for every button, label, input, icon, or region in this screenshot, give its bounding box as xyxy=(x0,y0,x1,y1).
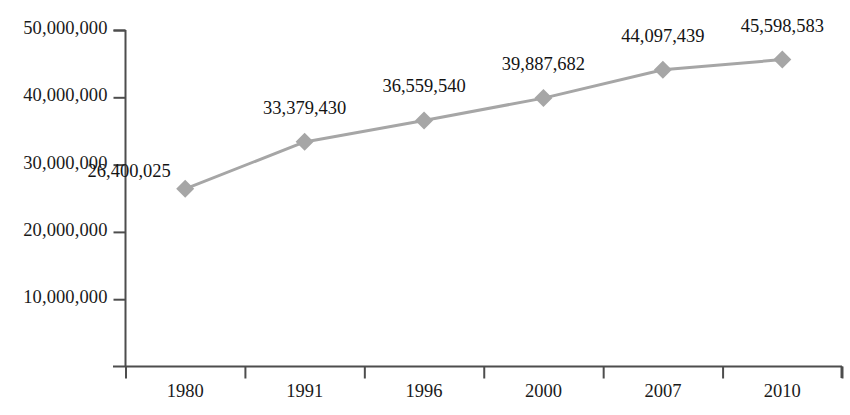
data-point-label: 26,400,025 xyxy=(69,161,189,182)
y-axis-tick-label: 50,000,000 xyxy=(23,18,107,39)
x-axis-ticks xyxy=(126,367,843,379)
data-point-marker xyxy=(534,89,552,107)
x-axis-tick-label: 1996 xyxy=(364,381,484,402)
data-point-marker xyxy=(296,133,314,151)
chart-canvas xyxy=(0,0,850,415)
x-axis-tick-label: 2010 xyxy=(722,381,842,402)
data-point-label: 36,559,540 xyxy=(364,76,484,97)
data-point-label: 44,097,439 xyxy=(603,26,723,47)
x-axis-tick-label: 2007 xyxy=(603,381,723,402)
data-point-label: 39,887,682 xyxy=(483,54,603,75)
data-point-label: 45,598,583 xyxy=(722,16,842,37)
line-chart: 10,000,00020,000,00030,000,00040,000,000… xyxy=(0,0,850,415)
y-axis-tick-label: 40,000,000 xyxy=(23,85,107,106)
data-point-marker xyxy=(176,180,194,198)
x-axis-tick-label: 1980 xyxy=(125,381,245,402)
data-point-marker xyxy=(415,111,433,129)
data-point-marker xyxy=(773,51,791,69)
x-axis-tick-label: 2000 xyxy=(483,381,603,402)
x-axis-tick-label: 1991 xyxy=(245,381,365,402)
data-point-marker xyxy=(654,61,672,79)
y-axis-tick-label: 20,000,000 xyxy=(23,220,107,241)
data-point-label: 33,379,430 xyxy=(245,98,365,119)
y-axis-tick-label: 10,000,000 xyxy=(23,287,107,308)
